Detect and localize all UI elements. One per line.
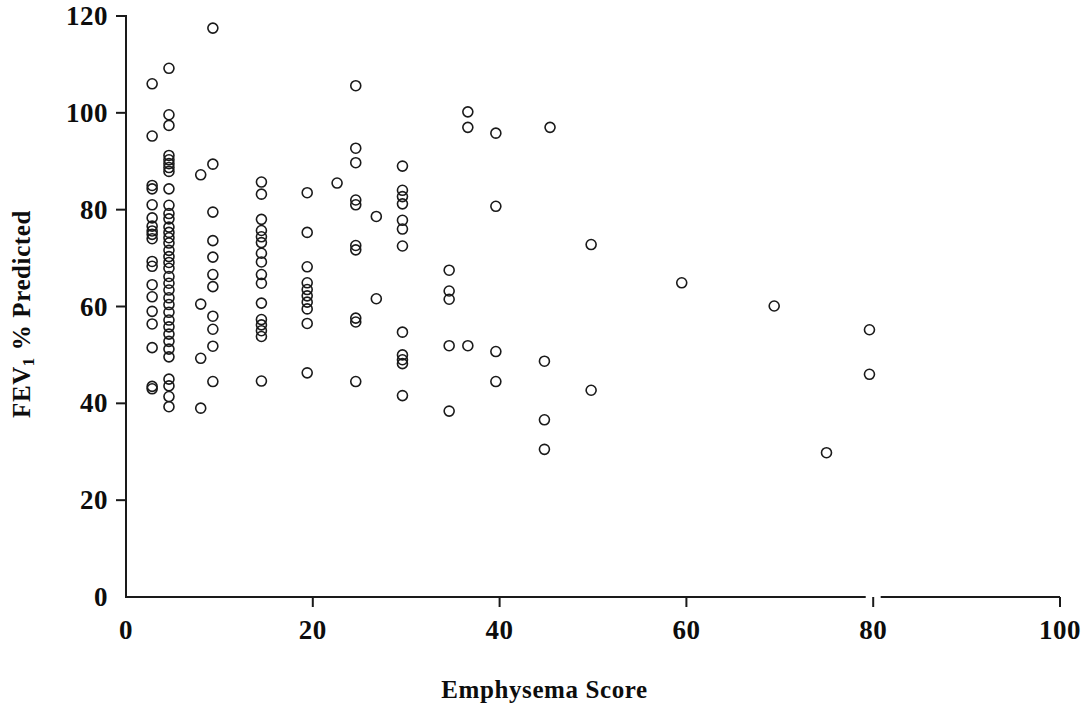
data-point	[196, 170, 206, 180]
data-point	[371, 294, 381, 304]
data-point	[545, 122, 555, 132]
y-tick-label-0: 0	[0, 582, 108, 613]
data-point	[444, 406, 454, 416]
data-point	[332, 178, 342, 188]
data-point	[196, 353, 206, 363]
data-point	[208, 159, 218, 169]
data-point	[351, 143, 361, 153]
x-tick-label-0: 0	[119, 615, 133, 646]
data-point	[864, 369, 874, 379]
data-point	[196, 299, 206, 309]
data-point	[302, 262, 312, 272]
data-point	[491, 128, 501, 138]
data-point	[208, 341, 218, 351]
data-point	[491, 377, 501, 387]
data-point	[351, 158, 361, 168]
data-point	[256, 376, 266, 386]
data-point	[208, 270, 218, 280]
data-point	[147, 292, 157, 302]
data-point	[491, 201, 501, 211]
plot-area	[0, 0, 1089, 717]
data-point	[208, 377, 218, 387]
data-point	[397, 327, 407, 337]
data-point	[208, 207, 218, 217]
data-point	[463, 122, 473, 132]
data-point	[302, 368, 312, 378]
data-point	[256, 332, 266, 342]
data-point	[164, 63, 174, 73]
data-point	[164, 392, 174, 402]
data-point	[164, 381, 174, 391]
data-point	[302, 227, 312, 237]
data-point	[444, 341, 454, 351]
data-point	[164, 110, 174, 120]
x-tick-label-80: 80	[859, 615, 887, 646]
data-point	[208, 252, 218, 262]
data-point	[164, 120, 174, 130]
x-tick-label-40: 40	[486, 615, 514, 646]
data-point	[208, 311, 218, 321]
data-point	[463, 107, 473, 117]
data-point	[208, 324, 218, 334]
data-point	[397, 161, 407, 171]
data-point	[256, 238, 266, 248]
data-point	[164, 252, 174, 262]
y-axis-title-rest: % Predicted	[8, 210, 35, 357]
data-point	[147, 343, 157, 353]
data-point	[822, 448, 832, 458]
data-point	[302, 188, 312, 198]
data-point	[491, 347, 501, 357]
data-point	[164, 402, 174, 412]
data-point	[147, 131, 157, 141]
data-point	[586, 240, 596, 250]
data-point	[256, 232, 266, 242]
data-point	[539, 356, 549, 366]
data-point	[539, 415, 549, 425]
data-point	[444, 265, 454, 275]
data-point	[164, 257, 174, 267]
data-point	[256, 177, 266, 187]
data-point	[147, 319, 157, 329]
data-point	[397, 241, 407, 251]
data-point	[256, 214, 266, 224]
data-point	[586, 385, 596, 395]
data-point	[864, 325, 874, 335]
data-point	[397, 391, 407, 401]
data-point	[256, 326, 266, 336]
data-point	[147, 306, 157, 316]
plot-canvas	[0, 0, 1089, 717]
data-point	[677, 278, 687, 288]
scatter-plot-figure: 120 100 80 60 40 20 0 0 20 40 60 80 100 …	[0, 0, 1089, 717]
data-point	[302, 304, 312, 314]
data-point	[539, 444, 549, 454]
y-axis-title-main: FEV	[8, 366, 35, 418]
data-point	[371, 211, 381, 221]
data-point	[147, 200, 157, 210]
data-point	[196, 403, 206, 413]
data-point	[164, 184, 174, 194]
x-axis-title: Emphysema Score	[0, 676, 1089, 704]
data-point	[256, 298, 266, 308]
data-point	[147, 79, 157, 89]
y-axis-title-subscript: 1	[19, 357, 38, 366]
data-point-group	[147, 23, 874, 458]
data-point	[208, 282, 218, 292]
x-tick-label-20: 20	[299, 615, 327, 646]
data-point	[208, 23, 218, 33]
y-tick-label-20: 20	[0, 485, 108, 516]
data-point	[147, 280, 157, 290]
data-point	[463, 341, 473, 351]
y-axis-title: FEV1 % Predicted	[8, 154, 36, 474]
data-point	[769, 301, 779, 311]
y-tick-label-120: 120	[0, 1, 108, 32]
x-tick-label-60: 60	[672, 615, 700, 646]
y-tick-label-100: 100	[0, 97, 108, 128]
x-tick-label-100: 100	[1039, 615, 1081, 646]
data-point	[302, 318, 312, 328]
data-point	[256, 189, 266, 199]
data-point	[208, 236, 218, 246]
data-point	[397, 199, 407, 209]
data-point	[351, 81, 361, 91]
data-point	[351, 377, 361, 387]
